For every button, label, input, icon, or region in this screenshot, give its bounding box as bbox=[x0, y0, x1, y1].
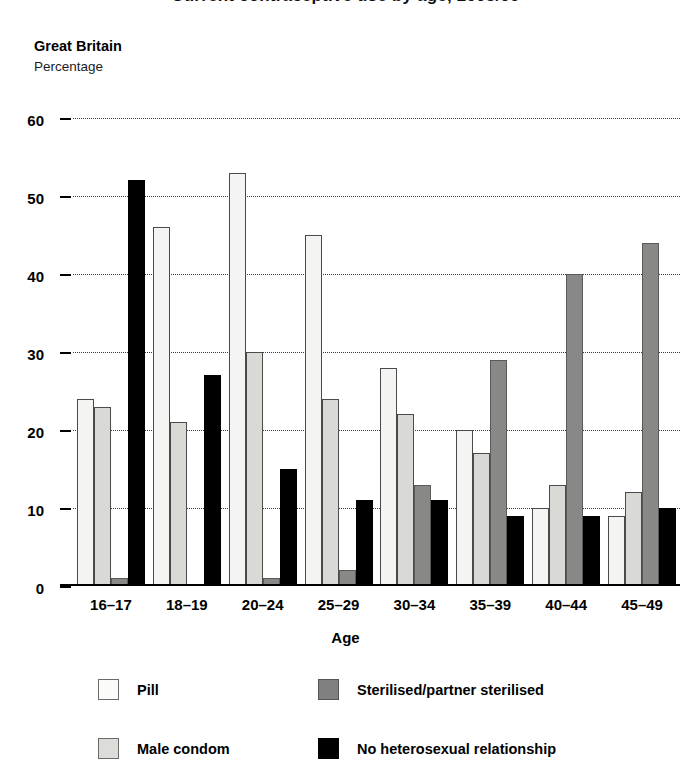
y-tick-label-60: 60 bbox=[27, 112, 44, 129]
legend-label: Male condom bbox=[137, 741, 230, 757]
x-axis-label: 25–29 bbox=[301, 596, 377, 613]
y-tick-label-20: 20 bbox=[27, 424, 44, 441]
x-axis-label: 35–39 bbox=[452, 596, 528, 613]
bar bbox=[642, 243, 659, 586]
bar bbox=[153, 227, 170, 586]
legend-label: Sterilised/partner sterilised bbox=[357, 682, 544, 698]
bar bbox=[229, 173, 246, 586]
y-tick-label-0: 0 bbox=[36, 580, 44, 597]
bar bbox=[246, 352, 263, 586]
y-tick-label-10: 10 bbox=[27, 502, 44, 519]
y-tick-mark-10: 10 bbox=[60, 508, 71, 510]
bar bbox=[566, 274, 583, 586]
y-tick-label-30: 30 bbox=[27, 346, 44, 363]
legend-label: Pill bbox=[137, 682, 159, 698]
legend-item-condom[interactable]: Male condom bbox=[98, 738, 318, 759]
chart-title: Current contraceptive use by age, 2008/0… bbox=[0, 0, 691, 4]
bar bbox=[170, 422, 187, 586]
bar bbox=[583, 516, 600, 586]
x-axis-label: 40–44 bbox=[528, 596, 604, 613]
plot-area: 0102030405060 bbox=[73, 118, 680, 586]
legend-label: No heterosexual relationship bbox=[357, 741, 556, 757]
bar bbox=[659, 508, 676, 586]
y-tick-mark-40: 40 bbox=[60, 274, 71, 276]
x-axis-label: 18–19 bbox=[149, 596, 225, 613]
legend-swatch-icon bbox=[318, 738, 339, 759]
legend-item-pill[interactable]: Pill bbox=[98, 679, 318, 700]
y-tick-mark-30: 30 bbox=[60, 352, 71, 354]
legend-item-none[interactable]: No heterosexual relationship bbox=[318, 738, 658, 759]
legend: PillSterilised/partner sterilisedMale co… bbox=[98, 679, 658, 759]
bar bbox=[549, 485, 566, 586]
bar bbox=[280, 469, 297, 586]
x-axis-line bbox=[60, 584, 680, 586]
y-tick-mark-60: 60 bbox=[60, 118, 71, 120]
bar bbox=[128, 180, 145, 586]
y-tick-mark-20: 20 bbox=[60, 430, 71, 432]
y-tick-mark-50: 50 bbox=[60, 196, 71, 198]
bar-group bbox=[305, 118, 373, 586]
bar bbox=[490, 360, 507, 586]
legend-swatch-icon bbox=[98, 679, 119, 700]
bar bbox=[397, 414, 414, 586]
legend-swatch-icon bbox=[98, 738, 119, 759]
bar bbox=[507, 516, 524, 586]
bar-group bbox=[380, 118, 448, 586]
bar bbox=[94, 407, 111, 586]
bar bbox=[414, 485, 431, 586]
bar-group bbox=[608, 118, 676, 586]
bar bbox=[456, 430, 473, 586]
bar bbox=[532, 508, 549, 586]
bar bbox=[431, 500, 448, 586]
bar-groups bbox=[73, 118, 680, 586]
y-tick-label-40: 40 bbox=[27, 268, 44, 285]
x-axis-title: Age bbox=[0, 629, 691, 646]
bar-group bbox=[153, 118, 221, 586]
bar bbox=[322, 399, 339, 586]
x-axis-label: 16–17 bbox=[73, 596, 149, 613]
y-tick-label-50: 50 bbox=[27, 190, 44, 207]
x-axis-label: 45–49 bbox=[604, 596, 680, 613]
region-label: Great Britain bbox=[34, 38, 122, 54]
legend-swatch-icon bbox=[318, 679, 339, 700]
bar bbox=[625, 492, 642, 586]
bar bbox=[356, 500, 373, 586]
x-axis-label: 30–34 bbox=[377, 596, 453, 613]
bar bbox=[77, 399, 94, 586]
bar bbox=[608, 516, 625, 586]
y-tick-mark-0: 0 bbox=[60, 586, 71, 588]
bar bbox=[204, 375, 221, 586]
x-axis-label: 20–24 bbox=[225, 596, 301, 613]
bar bbox=[473, 453, 490, 586]
bar-group bbox=[456, 118, 524, 586]
bar-group bbox=[77, 118, 145, 586]
bar bbox=[380, 368, 397, 586]
bar-group bbox=[532, 118, 600, 586]
bar bbox=[305, 235, 322, 586]
bar-group bbox=[229, 118, 297, 586]
units-label: Percentage bbox=[34, 59, 103, 74]
legend-item-sterilised[interactable]: Sterilised/partner sterilised bbox=[318, 679, 658, 700]
